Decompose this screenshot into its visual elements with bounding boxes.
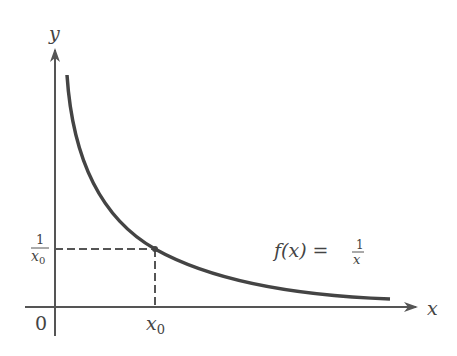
function-label-numerator: 1	[356, 238, 364, 252]
x-axis-label: x	[427, 297, 438, 319]
marked-point	[152, 246, 158, 252]
y-axis-label: y	[48, 22, 60, 44]
y-tick-denominator: x0	[31, 248, 45, 266]
function-label-denominator: x	[353, 252, 361, 267]
origin-label: 0	[35, 312, 47, 334]
function-label: f(x) =	[272, 239, 329, 261]
x0-tick-label: x0	[146, 312, 165, 337]
y-tick-numerator: 1	[36, 232, 44, 247]
hyperbola-curve	[67, 75, 390, 299]
function-graph: y x 0 x0 1 x0 f(x) = 1 x	[0, 0, 457, 356]
